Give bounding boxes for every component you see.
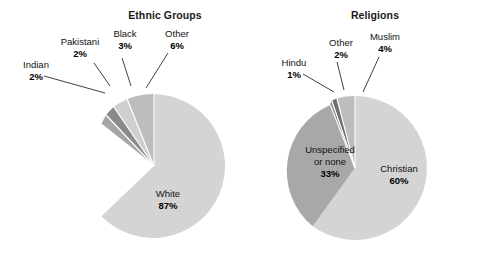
label-white-name: White <box>156 188 180 199</box>
leader-line-muslim <box>363 57 379 92</box>
label-muslim-name: Muslim <box>370 31 400 42</box>
label-christian-pct: 60% <box>389 175 409 186</box>
leader-line-other-religion <box>337 62 344 90</box>
label-black: Black 3% <box>113 28 136 51</box>
label-other-religion: Other 2% <box>329 37 353 60</box>
pie-slices-ethnic-groups <box>101 94 225 238</box>
label-hindu: Hindu 1% <box>282 57 307 80</box>
chart-title-religions: Religions <box>351 9 399 21</box>
label-pakistani-pct: 2% <box>73 48 87 59</box>
label-other-religion-pct: 2% <box>334 49 348 60</box>
pie-chart-figure: Ethnic Groups <box>0 0 478 256</box>
label-christian-name: Christian <box>380 163 418 174</box>
label-hindu-pct: 1% <box>287 69 301 80</box>
label-hindu-name: Hindu <box>282 57 307 68</box>
chart-ethnic-groups: Ethnic Groups <box>23 9 225 238</box>
leader-line-other <box>146 53 168 88</box>
leader-line-black <box>122 58 131 86</box>
label-indian-pct: 2% <box>29 71 43 82</box>
label-other-ethnic: Other 6% <box>165 28 189 51</box>
chart-title-ethnic-groups: Ethnic Groups <box>128 9 202 21</box>
chart-religions: Religions <box>282 9 427 240</box>
label-indian-name: Indian <box>23 59 49 70</box>
leader-line-indian <box>44 76 105 93</box>
label-muslim-pct: 4% <box>378 43 392 54</box>
leader-lines-ethnic-groups <box>44 53 168 93</box>
label-white: White 87% <box>156 188 180 211</box>
leader-line-hindu <box>303 74 334 92</box>
label-other-religion-name: Other <box>329 37 353 48</box>
label-muslim: Muslim 4% <box>370 31 400 54</box>
label-black-pct: 3% <box>118 40 132 51</box>
label-unspecified-pct: 33% <box>320 168 340 179</box>
label-black-name: Black <box>113 28 136 39</box>
label-other-ethnic-name: Other <box>165 28 189 39</box>
label-pakistani-name: Pakistani <box>61 36 100 47</box>
label-white-pct: 87% <box>158 200 178 211</box>
label-unspecified-line1: Unspecified <box>305 144 355 155</box>
label-unspecified-line2: or none <box>314 156 346 167</box>
leader-lines-religions <box>303 57 379 92</box>
label-pakistani: Pakistani 2% <box>61 36 100 59</box>
figure-canvas: Ethnic Groups <box>0 0 478 256</box>
label-other-ethnic-pct: 6% <box>170 40 184 51</box>
label-indian: Indian 2% <box>23 59 49 82</box>
leader-line-pakistani <box>94 63 110 86</box>
